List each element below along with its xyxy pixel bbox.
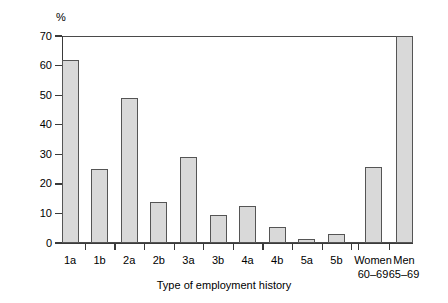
- bar-1b: [91, 169, 108, 243]
- bar-men-65-69: [396, 36, 413, 243]
- x-axis-label-men-65-69: Men65–69: [376, 254, 432, 280]
- x-axis-tick: [233, 244, 234, 250]
- x-axis-tick: [351, 244, 352, 250]
- bar-1a: [62, 60, 79, 243]
- x-axis-title: Type of employment history: [0, 279, 448, 291]
- y-axis-tick-label: 50: [22, 90, 52, 101]
- y-axis-tick-label: 60: [22, 60, 52, 71]
- bar-4a: [239, 206, 256, 243]
- x-axis-label-line1: 5b: [330, 254, 342, 266]
- x-axis-tick: [358, 244, 359, 250]
- bar-5b: [328, 234, 345, 243]
- y-axis-tick-label: 20: [22, 178, 52, 189]
- y-axis-unit-label: %: [56, 12, 66, 23]
- x-axis-tick: [144, 244, 145, 250]
- y-axis-tick: [55, 35, 62, 36]
- bar-women-60-69: [365, 167, 382, 243]
- bar-3a: [180, 157, 197, 243]
- bar-4b: [269, 227, 286, 243]
- bar-chart: % 010203040506070 1a1b2a2b3a3b4a4b5a5bWo…: [0, 0, 448, 303]
- bar-2b: [150, 202, 167, 243]
- x-axis-tick: [174, 244, 175, 250]
- x-axis-tick: [262, 244, 263, 250]
- plot-frame: [62, 36, 412, 243]
- bar-2a: [121, 98, 138, 243]
- x-axis-tick: [114, 244, 115, 250]
- x-axis-tick: [389, 244, 390, 250]
- x-axis-tick: [292, 244, 293, 250]
- x-axis-label-line1: Men: [393, 254, 414, 266]
- y-axis-tick-label: 10: [22, 208, 52, 219]
- bar-3b: [210, 215, 227, 243]
- x-axis-tick: [85, 244, 86, 250]
- bar-5a: [298, 239, 315, 243]
- x-axis-tick: [203, 244, 204, 250]
- x-axis-tick: [322, 244, 323, 250]
- y-axis-tick-label: 0: [22, 238, 52, 249]
- y-axis-tick-label: 40: [22, 119, 52, 130]
- y-axis-tick-label: 30: [22, 149, 52, 160]
- y-axis-tick-label: 70: [22, 31, 52, 42]
